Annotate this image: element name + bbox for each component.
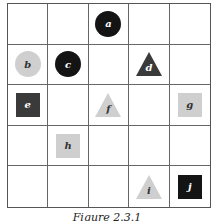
shape-b-circle-icon: b [15, 51, 41, 77]
grid-cell: i [129, 166, 169, 207]
grid-cell [170, 45, 210, 86]
grid-cell: c [48, 45, 88, 86]
shape-g-square-icon: g [178, 93, 202, 117]
grid-cell [8, 4, 48, 45]
grid-cell: d [129, 45, 169, 86]
shape-label: j [188, 181, 192, 192]
shape-label: g [186, 99, 193, 110]
grid-cell [170, 4, 210, 45]
grid-cell [170, 126, 210, 167]
shape-a-circle-icon: a [95, 11, 121, 37]
shape-label: f [95, 103, 121, 114]
grid-cell: h [48, 126, 88, 167]
grid-cell [48, 85, 88, 126]
figure-caption: Figure 2.3.1 [0, 211, 214, 221]
shape-c-circle-icon: c [55, 51, 81, 77]
grid-cell [89, 126, 129, 167]
grid-cell [129, 85, 169, 126]
grid-cell [89, 45, 129, 86]
shape-label: c [65, 59, 71, 70]
grid-cell [8, 166, 48, 207]
shape-label: a [105, 18, 111, 29]
grid-cell: e [8, 85, 48, 126]
shape-label: b [24, 59, 31, 70]
shape-label: e [25, 99, 31, 110]
grid-cell: b [8, 45, 48, 86]
shape-label: i [136, 185, 162, 196]
grid-cell: g [170, 85, 210, 126]
shape-grid: abcdefghij [7, 3, 211, 208]
shape-h-square-icon: h [56, 134, 80, 158]
grid-cell [8, 126, 48, 167]
grid-cell: a [89, 4, 129, 45]
grid-cell: f [89, 85, 129, 126]
grid-cell [129, 126, 169, 167]
shape-label: d [136, 62, 162, 73]
grid-cell [129, 4, 169, 45]
shape-label: h [64, 140, 71, 151]
grid-cell: j [170, 166, 210, 207]
shape-e-square-icon: e [16, 93, 40, 117]
shape-d-triangle-icon: d [136, 52, 162, 76]
shape-i-triangle-icon: i [136, 175, 162, 199]
grid-cell [48, 166, 88, 207]
grid-cell [48, 4, 88, 45]
shape-f-triangle-icon: f [95, 93, 121, 117]
shape-j-square-icon: j [178, 175, 202, 199]
grid-cell [89, 166, 129, 207]
